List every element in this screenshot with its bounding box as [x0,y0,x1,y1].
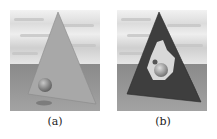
pyramid-shape [10,10,100,111]
sphere [154,63,168,77]
sphere [38,78,52,92]
figure-panel-b [117,10,207,111]
caption-a: (a) [40,115,70,128]
caption-b: (b) [148,115,178,128]
figure-panel-a [10,10,100,111]
pyramid-shape [117,10,207,111]
sphere-shadow [36,101,52,106]
